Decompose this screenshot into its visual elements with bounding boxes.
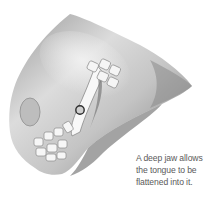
marker-circle bbox=[76, 106, 84, 114]
caption-line-2: the tongue to be bbox=[136, 164, 223, 176]
caption-line-1: A deep jaw allows bbox=[136, 152, 223, 164]
caption: A deep jaw allows the tongue to be flatt… bbox=[136, 152, 223, 188]
caption-line-3: flattened into it. bbox=[136, 176, 223, 188]
chin-bump bbox=[20, 98, 40, 126]
